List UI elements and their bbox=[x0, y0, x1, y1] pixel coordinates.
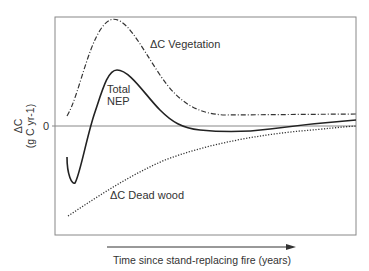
y-axis-label-line1: ΔC bbox=[12, 118, 24, 133]
arrow-right-icon bbox=[286, 244, 296, 250]
x-axis-label: Time since stand-replacing fire (years) bbox=[113, 254, 291, 266]
vegetation-label: ΔC Vegetation bbox=[150, 38, 220, 50]
nep-label-line2: NEP bbox=[107, 95, 130, 107]
deadwood-curve bbox=[68, 126, 356, 216]
y-axis-label-line2: (g C yr-1) bbox=[24, 104, 36, 148]
y-tick-zero: 0 bbox=[43, 120, 49, 132]
chart: ΔC Vegetation Total NEP ΔC Dead wood 0 Δ… bbox=[0, 0, 369, 271]
deadwood-label: ΔC Dead wood bbox=[110, 189, 184, 201]
nep-label-line1: Total bbox=[107, 83, 130, 95]
